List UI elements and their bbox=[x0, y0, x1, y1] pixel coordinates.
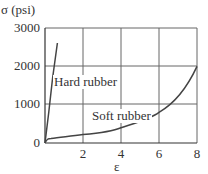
x-tick-2: 2 bbox=[73, 146, 93, 162]
x-tick-6: 6 bbox=[149, 146, 169, 162]
x-axis-label: ε bbox=[114, 159, 119, 174]
hard-rubber-label: Hard rubber bbox=[53, 75, 118, 89]
hard-rubber-curve bbox=[45, 43, 57, 143]
x-tick-8: 8 bbox=[187, 146, 207, 162]
soft-rubber-label: Soft rubber bbox=[91, 109, 152, 123]
